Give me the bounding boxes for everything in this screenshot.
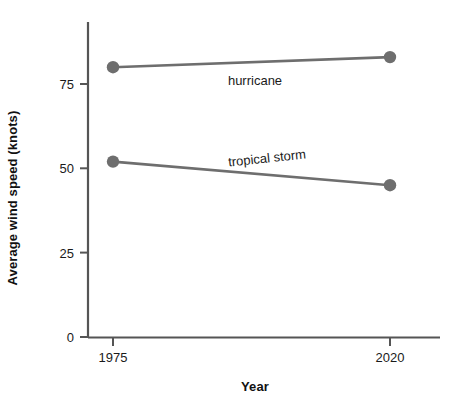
- y-axis-tick-label-50: 50: [60, 161, 74, 176]
- series-label-hurricane: hurricane: [228, 73, 282, 88]
- x-axis-tick-label-2020: 2020: [376, 350, 405, 365]
- data-point-hurricane-1975: [107, 61, 119, 73]
- y-axis-tick-label-25: 25: [60, 246, 74, 261]
- y-axis-tick-label-75: 75: [60, 77, 74, 92]
- series-line-hurricane: [113, 57, 390, 67]
- y-axis-tick-label-0: 0: [67, 330, 74, 345]
- chart-plot-area: [0, 0, 463, 407]
- data-point-tropical-storm-2020: [384, 179, 396, 191]
- wind-speed-line-chart: 75 50 25 0 1975 2020 Average wind speed …: [0, 0, 463, 407]
- data-point-tropical-storm-1975: [107, 155, 119, 167]
- x-axis-title: Year: [241, 379, 269, 394]
- y-axis-title: Average wind speed (knots): [5, 111, 20, 286]
- x-axis-tick-label-1975: 1975: [99, 350, 128, 365]
- data-point-hurricane-2020: [384, 51, 396, 63]
